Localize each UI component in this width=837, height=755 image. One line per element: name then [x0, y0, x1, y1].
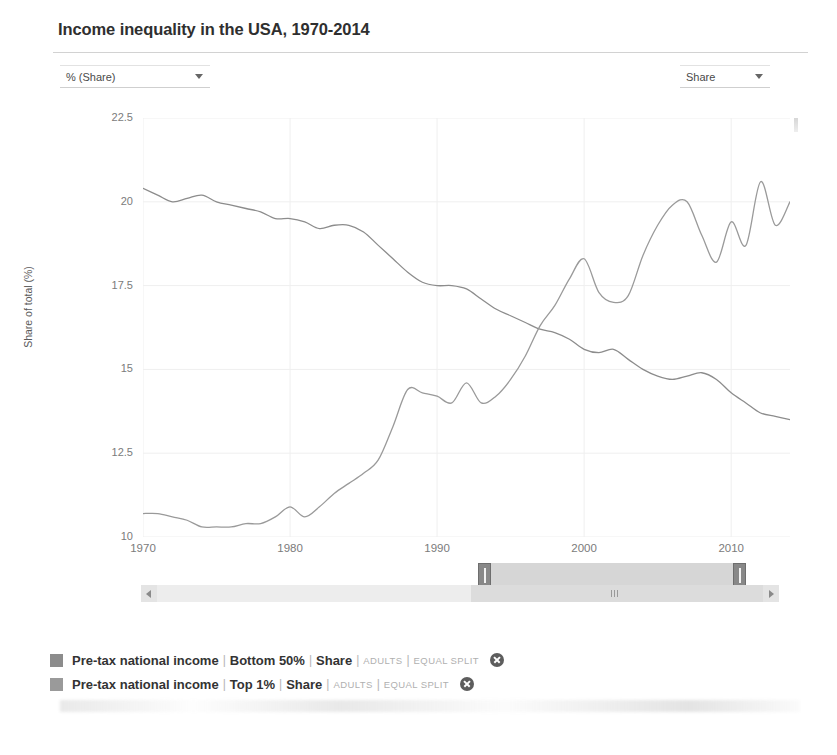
close-icon[interactable]: [490, 653, 504, 667]
brush-handle-left[interactable]: [478, 563, 491, 587]
x-axis-tick: 2010: [718, 542, 744, 554]
y-axis-tick: 10: [89, 530, 133, 542]
legend-separator: |: [356, 653, 359, 667]
legend-separator: |: [223, 677, 226, 691]
y-axis-title: Share of total (%): [22, 247, 34, 367]
title-bar: Income inequality in the USA, 1970-2014: [0, 0, 837, 56]
legend-population-label: Top 1%: [230, 677, 275, 692]
arrow-right-icon[interactable]: [763, 585, 779, 602]
chart-line: [143, 188, 790, 419]
y-axis-tick: 17.5: [89, 279, 133, 291]
chart-plot-wrapper: Share of total (%) 1012.51517.52022.5 19…: [0, 96, 837, 556]
page-title: Income inequality in the USA, 1970-2014: [58, 20, 370, 39]
title-divider: [53, 52, 808, 53]
legend-population-label: Bottom 50%: [230, 653, 305, 668]
x-axis-tick: 1980: [277, 542, 303, 554]
legend-separator: |: [279, 677, 282, 691]
legend-separator: |: [406, 653, 409, 667]
legend-color-swatch: [50, 654, 63, 667]
legend-separator: |: [377, 677, 380, 691]
unit-select-value: % (Share): [66, 71, 116, 83]
y-axis-tick: 22.5: [89, 111, 133, 123]
controls-bar: % (Share) Share: [0, 56, 837, 96]
legend-separator: |: [326, 677, 329, 691]
chart-plot-area[interactable]: [143, 118, 790, 537]
chart-series-lines: [143, 182, 790, 528]
legend-source-label: Pre-tax national income: [72, 653, 219, 668]
brush-handle-right[interactable]: [733, 563, 746, 587]
legend-item[interactable]: Pre-tax national income|Top 1%|Share|ADU…: [50, 672, 750, 696]
grip-icon: [611, 590, 620, 597]
x-axis-tick: 1970: [130, 542, 156, 554]
unit-select[interactable]: % (Share): [60, 65, 210, 88]
legend-tag-equal-split: EQUAL SPLIT: [414, 655, 479, 666]
close-icon[interactable]: [460, 677, 474, 691]
legend-tag-adults: ADULTS: [333, 679, 372, 690]
legend-source-label: Pre-tax national income: [72, 677, 219, 692]
render-artifact-band: [60, 700, 800, 712]
arrow-left-icon[interactable]: [141, 585, 157, 602]
horizontal-scrollbar[interactable]: [141, 585, 779, 602]
legend-measure-label: Share: [286, 677, 322, 692]
legend-measure-label: Share: [316, 653, 352, 668]
metric-select[interactable]: Share: [680, 65, 770, 88]
legend-tag-adults: ADULTS: [363, 655, 402, 666]
y-axis-tick: 15: [89, 362, 133, 374]
chevron-down-icon: [195, 74, 203, 79]
chart-legend: Pre-tax national income|Bottom 50%|Share…: [50, 648, 750, 696]
legend-item[interactable]: Pre-tax national income|Bottom 50%|Share…: [50, 648, 750, 672]
chart-line: [143, 182, 790, 528]
legend-color-swatch: [50, 678, 63, 691]
chart-svg: [143, 118, 790, 537]
chart-gridlines: [143, 118, 790, 537]
chevron-down-icon: [755, 74, 763, 79]
scrollbar-thumb[interactable]: [471, 585, 766, 602]
y-axis-tick: 12.5: [89, 446, 133, 458]
metric-select-value: Share: [686, 71, 715, 83]
y-axis-tick-labels: 1012.51517.52022.5: [85, 96, 133, 536]
legend-separator: |: [223, 653, 226, 667]
legend-separator: |: [309, 653, 312, 667]
time-range-brush[interactable]: [478, 563, 746, 587]
legend-tag-equal-split: EQUAL SPLIT: [384, 679, 449, 690]
x-axis-tick: 2000: [571, 542, 597, 554]
x-axis-tick: 1990: [424, 542, 450, 554]
y-axis-tick: 20: [89, 195, 133, 207]
